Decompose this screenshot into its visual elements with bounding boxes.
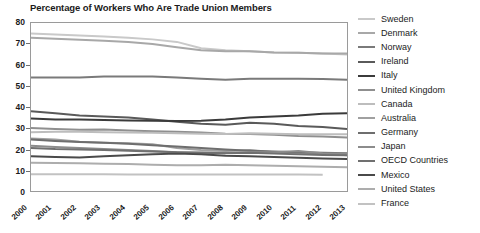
legend-item[interactable]: Germany xyxy=(358,126,480,140)
series-line xyxy=(31,34,347,55)
x-tick-label: 2003 xyxy=(83,203,102,222)
x-tick-label: 2009 xyxy=(230,203,249,222)
legend-item[interactable]: Australia xyxy=(358,111,480,125)
legend-label: Australia xyxy=(381,114,416,123)
legend-label: Ireland xyxy=(381,57,409,66)
legend-label: Canada xyxy=(381,100,413,109)
y-tick-label: 40 xyxy=(16,102,25,112)
legend-item[interactable]: Italy xyxy=(358,69,480,83)
legend-item[interactable]: OECD Countries xyxy=(358,154,480,168)
legend-label: Mexico xyxy=(381,171,410,180)
legend-swatch xyxy=(358,146,375,148)
legend-swatch xyxy=(358,75,375,77)
legend-item[interactable]: Ireland xyxy=(358,55,480,69)
series-line xyxy=(31,163,347,168)
y-tick-label: 0 xyxy=(20,187,25,197)
chart-container: Percentage of Workers Who Are Trade Unio… xyxy=(0,0,480,233)
legend-label: Sweden xyxy=(381,15,414,24)
legend-swatch xyxy=(358,32,375,34)
legend-item[interactable]: France xyxy=(358,196,480,210)
legend-swatch xyxy=(358,46,375,48)
legend-item[interactable]: Sweden xyxy=(358,12,480,26)
legend-item[interactable]: Denmark xyxy=(358,26,480,40)
series-line xyxy=(31,77,347,80)
x-tick-label: 2005 xyxy=(132,203,151,222)
legend-swatch xyxy=(358,188,375,190)
legend-item[interactable]: United States xyxy=(358,182,480,196)
x-tick-label: 2012 xyxy=(303,203,322,222)
plot-lines xyxy=(31,23,347,191)
y-tick-label: 20 xyxy=(16,145,25,155)
legend-label: France xyxy=(381,199,409,208)
x-tick-label: 2002 xyxy=(59,203,78,222)
x-tick-label: 2011 xyxy=(279,203,298,221)
x-tick-label: 2013 xyxy=(328,203,347,222)
legend-swatch xyxy=(358,18,375,20)
legend-swatch xyxy=(358,103,375,105)
legend-label: Norway xyxy=(381,43,412,52)
legend-item[interactable]: Japan xyxy=(358,140,480,154)
y-tick-label: 10 xyxy=(16,166,25,176)
x-tick-label: 2010 xyxy=(254,203,273,222)
x-axis: 2000200120022003200420052006200720082009… xyxy=(30,192,348,233)
x-tick-label: 2008 xyxy=(205,203,224,222)
y-tick-label: 50 xyxy=(16,81,25,91)
legend-swatch xyxy=(358,174,375,176)
legend-swatch xyxy=(358,203,375,205)
legend-swatch xyxy=(358,61,375,63)
plot-area xyxy=(30,22,348,192)
legend-item[interactable]: Mexico xyxy=(358,168,480,182)
legend-label: United Kingdom xyxy=(381,86,445,95)
y-tick-label: 30 xyxy=(16,123,25,133)
x-tick-label: 2000 xyxy=(10,203,29,222)
legend-label: Denmark xyxy=(381,29,418,38)
legend-item[interactable]: Norway xyxy=(358,40,480,54)
chart-title: Percentage of Workers Who Are Trade Unio… xyxy=(30,2,272,13)
legend-label: Japan xyxy=(381,142,406,151)
legend-label: OECD Countries xyxy=(381,156,448,165)
legend-label: United States xyxy=(381,185,435,194)
legend-item[interactable]: Canada xyxy=(358,97,480,111)
x-tick-label: 2006 xyxy=(156,203,175,222)
y-tick-label: 70 xyxy=(16,38,25,48)
chart-legend: SwedenDenmarkNorwayIrelandItalyUnited Ki… xyxy=(358,12,480,211)
x-tick-label: 2004 xyxy=(108,203,127,222)
x-tick-label: 2007 xyxy=(181,203,200,222)
legend-swatch xyxy=(358,89,375,91)
y-tick-label: 80 xyxy=(16,17,25,27)
legend-swatch xyxy=(358,117,375,119)
legend-item[interactable]: United Kingdom xyxy=(358,83,480,97)
legend-label: Germany xyxy=(381,128,418,137)
legend-swatch xyxy=(358,132,375,134)
y-tick-label: 60 xyxy=(16,60,25,70)
y-axis: 01020304050607080 xyxy=(0,22,30,192)
series-line xyxy=(31,174,323,175)
x-tick-label: 2001 xyxy=(34,203,53,222)
legend-swatch xyxy=(358,160,375,162)
legend-label: Italy xyxy=(381,71,398,80)
